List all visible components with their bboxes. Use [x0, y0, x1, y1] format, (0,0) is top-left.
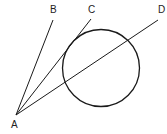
geometry-diagram: A B C D	[0, 0, 167, 134]
label-b: B	[50, 4, 57, 15]
ray-ab	[16, 20, 53, 115]
ray-ad-secant	[16, 20, 158, 115]
label-a: A	[11, 119, 18, 130]
label-d: D	[158, 4, 165, 15]
label-c: C	[88, 4, 95, 15]
